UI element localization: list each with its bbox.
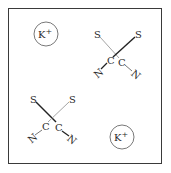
potassium-ion-top-left: K+ (34, 22, 58, 46)
atom-s: S (94, 29, 101, 40)
ion-label: K+ (114, 130, 128, 143)
atom-s: S (69, 94, 76, 105)
atom-n: N (92, 66, 106, 80)
atom-s: S (135, 29, 142, 40)
bond-c-n (62, 131, 69, 136)
figure-canvas: K+ K+ S S C C N N S S C C N N (0, 0, 171, 173)
bond-c-n (125, 65, 132, 71)
bond-s-c-bold (36, 102, 56, 122)
bond-s-c (48, 102, 69, 122)
atom-c: C (55, 122, 63, 133)
atom-c: C (118, 57, 126, 68)
thiocyanate-molecule-top-right: S S C C N N (92, 29, 143, 82)
atom-c: C (42, 121, 50, 132)
atom-c: C (107, 55, 115, 66)
atom-s: S (30, 94, 37, 105)
potassium-ion-bottom-right: K+ (110, 125, 134, 149)
ion-label: K+ (38, 27, 52, 40)
bond-s-c-bold (113, 37, 135, 57)
bond-c-n (35, 130, 42, 135)
thiocyanate-molecule-bottom-left: S S C C N N (26, 94, 79, 147)
